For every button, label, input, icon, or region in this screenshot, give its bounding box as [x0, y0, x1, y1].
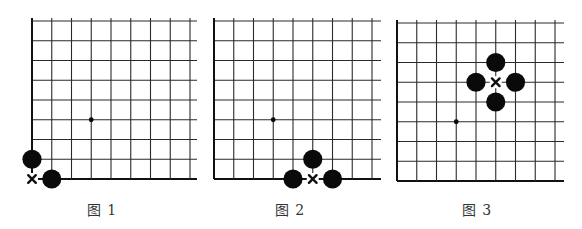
board-1 [22, 18, 197, 189]
black-stone-icon [42, 169, 61, 188]
black-stone-icon [466, 73, 485, 92]
black-stone-icon [486, 92, 505, 111]
board-2 [214, 18, 381, 189]
go-boards [0, 0, 582, 229]
caption-figure-1: 图 1 [72, 199, 132, 219]
caption-figure-3: 图 3 [447, 199, 507, 219]
black-stone-icon [506, 73, 525, 92]
star-point-icon [271, 117, 276, 122]
black-stone-icon [323, 169, 342, 188]
go-diagrams-figure: 图 1 图 2 图 3 [0, 0, 582, 229]
black-stone-icon [283, 169, 302, 188]
star-point-icon [89, 117, 94, 122]
star-point-icon [454, 119, 459, 124]
black-stone-icon [303, 150, 322, 169]
caption-figure-2: 图 2 [260, 199, 320, 219]
board-3 [397, 20, 564, 181]
black-stone-icon [22, 150, 41, 169]
black-stone-icon [486, 53, 505, 72]
